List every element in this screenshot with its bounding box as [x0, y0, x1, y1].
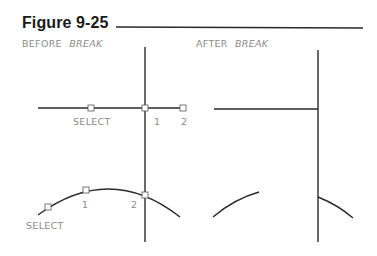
before-arc — [38, 189, 180, 217]
arc-point2-label: 2 — [131, 199, 137, 210]
arc-select-pick-box — [45, 204, 51, 210]
select-pick-box — [88, 105, 94, 111]
point2-pick-box — [180, 105, 186, 111]
before-panel: SELECT 1 2 1 2 SELECT — [26, 47, 187, 242]
point1-pick-box — [142, 105, 148, 111]
arc-point1-label: 1 — [82, 199, 88, 210]
before-header-prefix: BEFORE — [22, 38, 62, 49]
arc-point2-pick-box — [142, 192, 148, 198]
before-header: BEFORE BREAK — [22, 38, 103, 49]
after-arc-left-segment — [213, 192, 259, 217]
title-rule — [116, 27, 363, 28]
after-header-command: BREAK — [235, 38, 269, 49]
line-point1-label: 1 — [154, 116, 160, 127]
arc-point1-pick-box — [83, 187, 89, 193]
after-panel — [213, 50, 353, 242]
before-header-command: BREAK — [69, 38, 103, 49]
after-arc-right-segment — [318, 197, 353, 218]
arc-select-label: SELECT — [26, 220, 64, 231]
after-header-prefix: AFTER — [196, 38, 228, 49]
line-select-label: SELECT — [73, 116, 111, 127]
after-header: AFTER BREAK — [196, 38, 269, 49]
line-point2-label: 2 — [181, 116, 187, 127]
break-command-diagram: BEFORE BREAK AFTER BREAK SELECT 1 2 1 2 … — [0, 0, 377, 256]
